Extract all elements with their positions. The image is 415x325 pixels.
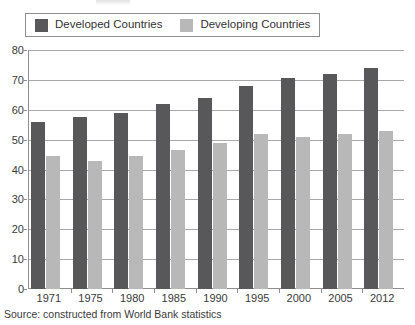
y-axis-tick-label: 80 xyxy=(2,45,24,56)
chart-legend: Developed Countries Developing Countries xyxy=(25,13,320,37)
y-axis: 01020304050607080 xyxy=(0,50,24,289)
bar-developing xyxy=(254,134,268,289)
y-axis-tick-mark xyxy=(24,259,27,260)
legend-item-developing: Developing Countries xyxy=(180,19,310,32)
bar-developing xyxy=(296,137,310,289)
y-axis-tick-mark xyxy=(24,80,27,81)
y-axis-tick-mark xyxy=(24,289,27,290)
bar-developed xyxy=(73,117,87,289)
clipped-top-artifact xyxy=(96,0,130,5)
bar-group xyxy=(154,50,196,289)
bar-developing xyxy=(171,150,185,289)
y-axis-tick-label: 0 xyxy=(2,284,24,295)
plot-area xyxy=(28,50,403,289)
x-axis-tick-label: 2012 xyxy=(370,293,394,304)
x-axis: 197119751980198519901995200020052012 xyxy=(28,293,403,309)
source-note: Source: constructed from World Bank stat… xyxy=(4,308,221,320)
y-axis-tick-label: 50 xyxy=(2,134,24,145)
bar-group xyxy=(321,50,363,289)
legend-item-label: Developed Countries xyxy=(55,19,162,31)
x-axis-tick-label: 1990 xyxy=(203,293,227,304)
y-axis-tick-mark xyxy=(24,229,27,230)
y-axis-tick-label: 10 xyxy=(2,254,24,265)
bar-group xyxy=(29,50,71,289)
bar-group xyxy=(71,50,113,289)
y-axis-tick-label: 30 xyxy=(2,194,24,205)
y-axis-tick-label: 60 xyxy=(2,104,24,115)
bar-developing xyxy=(46,156,60,289)
bar-developed xyxy=(364,68,378,289)
bar-developing xyxy=(88,161,102,289)
legend-swatch-icon xyxy=(180,19,193,32)
bar-developed xyxy=(156,104,170,289)
bar-developing xyxy=(338,134,352,289)
bar-developing xyxy=(129,156,143,289)
y-axis-tick-label: 20 xyxy=(2,224,24,235)
bars-layer xyxy=(29,50,404,289)
x-axis-tick-label: 1985 xyxy=(162,293,186,304)
y-axis-tick-label: 70 xyxy=(2,74,24,85)
bar-developing xyxy=(379,131,393,289)
bar-developed xyxy=(281,78,295,289)
x-axis-tick-label: 1971 xyxy=(37,293,61,304)
legend-item-label: Developing Countries xyxy=(200,19,310,31)
y-axis-tick-mark xyxy=(24,140,27,141)
y-axis-tick-mark xyxy=(24,50,27,51)
y-axis-tick-label: 40 xyxy=(2,164,24,175)
bar-group xyxy=(196,50,238,289)
bar-developed xyxy=(114,113,128,289)
bar-group xyxy=(362,50,404,289)
x-axis-tick-label: 1980 xyxy=(120,293,144,304)
bar-developed xyxy=(31,122,45,289)
bar-developed xyxy=(198,98,212,289)
bar-group xyxy=(237,50,279,289)
x-axis-tick-label: 1975 xyxy=(78,293,102,304)
bar-developed xyxy=(323,74,337,289)
bar-developed xyxy=(239,86,253,289)
y-axis-tick-mark xyxy=(24,170,27,171)
x-axis-tick-label: 2000 xyxy=(287,293,311,304)
legend-swatch-icon xyxy=(35,19,48,32)
x-axis-tick-label: 1995 xyxy=(245,293,269,304)
y-axis-tick-mark xyxy=(24,199,27,200)
bar-group xyxy=(279,50,321,289)
bar-developing xyxy=(213,143,227,289)
y-axis-tick-mark xyxy=(24,110,27,111)
bar-group xyxy=(112,50,154,289)
x-axis-tick-label: 2005 xyxy=(328,293,352,304)
legend-item-developed: Developed Countries xyxy=(35,19,162,32)
